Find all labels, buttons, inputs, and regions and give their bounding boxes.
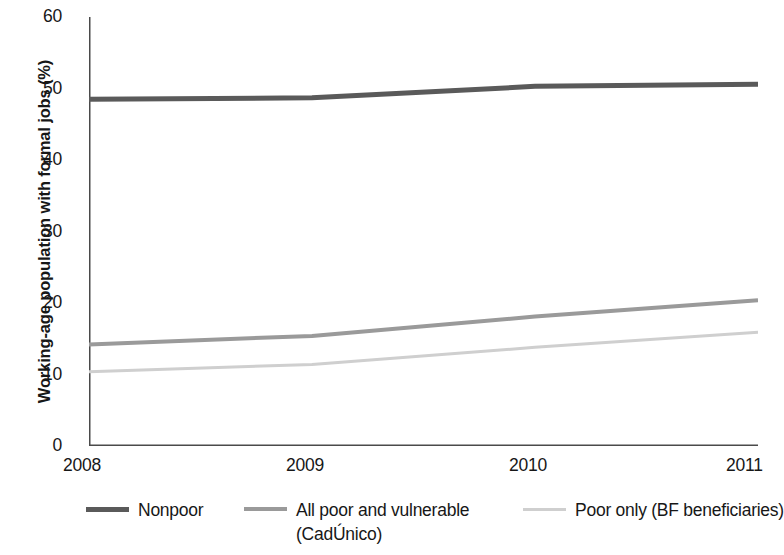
y-tick-label-0: 0 xyxy=(8,435,62,456)
legend-label-all-poor: All poor and vulnerable (CadÚnico) xyxy=(296,498,556,546)
series-line-0 xyxy=(89,84,758,99)
legend-label-nonpoor: Nonpoor xyxy=(138,498,203,522)
legend-line-poor-only-icon xyxy=(523,508,566,511)
plot-svg xyxy=(89,17,758,446)
legend-line-all-poor-icon xyxy=(244,507,287,511)
plot-area xyxy=(89,17,758,446)
legend-entry-all-poor: All poor and vulnerable (CadÚnico) xyxy=(244,498,556,546)
x-tick-label-2011: 2011 xyxy=(726,455,763,476)
x-tick-label-2010: 2010 xyxy=(509,455,547,476)
chart-legend: Nonpoor All poor and vulnerable (CadÚnic… xyxy=(86,498,778,554)
legend-entry-nonpoor: Nonpoor xyxy=(86,498,203,522)
y-tick-label-50: 50 xyxy=(8,78,62,99)
x-tick-label-2008: 2008 xyxy=(63,455,101,476)
y-tick-label-40: 40 xyxy=(8,149,62,170)
series-line-2 xyxy=(89,332,758,371)
legend-line-nonpoor-icon xyxy=(86,507,129,512)
y-tick-label-60: 60 xyxy=(8,6,62,27)
y-tick-label-30: 30 xyxy=(8,221,62,242)
y-tick-label-10: 10 xyxy=(8,364,62,385)
axes-layer xyxy=(89,17,758,446)
series-layer xyxy=(89,84,758,371)
x-tick-label-2009: 2009 xyxy=(286,455,324,476)
y-tick-label-20: 20 xyxy=(8,292,62,313)
legend-entry-poor-only: Poor only (BF beneficiaries) xyxy=(523,498,784,522)
legend-label-poor-only: Poor only (BF beneficiaries) xyxy=(575,498,784,522)
